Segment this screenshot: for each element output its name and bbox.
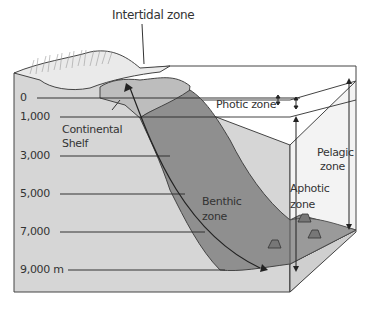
depth-tick-9000: 9,000 m	[20, 263, 64, 276]
benthic-zone-label-2: zone	[202, 210, 227, 223]
ocean-zones-diagram	[0, 0, 367, 325]
continental-shelf-label-1: Continental	[62, 123, 122, 136]
intertidal-zone-label: Intertidal zone	[112, 9, 194, 22]
depth-tick-3000: 3,000	[20, 149, 50, 162]
intertidal-pointer	[142, 24, 144, 64]
continental-shelf-label-2: Shelf	[62, 137, 88, 150]
depth-tick-5000: 5,000	[20, 187, 50, 200]
depth-tick-1000: 1,000	[20, 110, 50, 123]
photic-zone-label: Photic zone	[216, 98, 276, 111]
pelagic-zone-label-2: zone	[320, 160, 345, 173]
depth-tick-7000: 7,000	[20, 225, 50, 238]
aphotic-zone-label-1: Aphotic	[290, 182, 330, 195]
aphotic-zone-label-2: zone	[290, 198, 315, 211]
benthic-zone-label-1: Benthic	[202, 195, 242, 208]
pelagic-zone-label-1: Pelagic	[317, 146, 354, 159]
depth-tick-0: 0	[20, 91, 27, 104]
